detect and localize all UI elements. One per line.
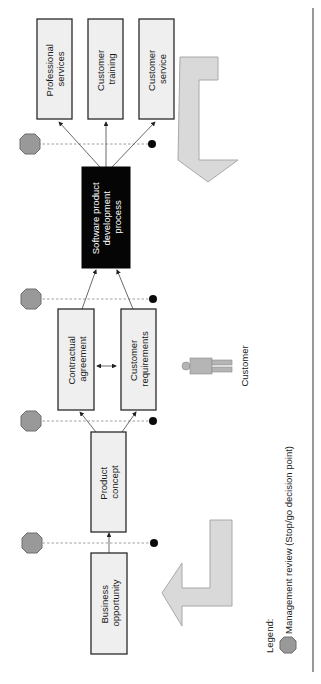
svg-text:Customer requirements: Customer requirements xyxy=(128,331,150,387)
octagon-icon xyxy=(22,533,42,553)
box-customer-service: Customer service xyxy=(139,19,174,119)
customer-label: Customer xyxy=(239,345,250,386)
arrow-concept-to-agreement xyxy=(80,412,96,432)
box-customer-training: Customer training xyxy=(88,19,123,119)
process-diagram: Professional services Customer training … xyxy=(0,0,321,684)
svg-text:Business opportunity: Business opportunity xyxy=(99,579,121,626)
svg-text:Contractual agreement: Contractual agreement xyxy=(66,333,88,384)
octagon-legend-icon xyxy=(280,637,296,653)
octagon-icon xyxy=(21,411,41,431)
dot-icon xyxy=(148,140,156,148)
legend-title: Legend: xyxy=(264,619,275,653)
flow-arrow-bottom xyxy=(162,520,232,626)
dot-icon xyxy=(149,295,157,303)
legend: Legend: Management review (Stop/go decis… xyxy=(264,446,296,653)
arrow-agreement-to-process xyxy=(82,270,96,309)
legend-item-text: Management review (Stop/go decision poin… xyxy=(283,446,294,634)
box-contractual-agreement: Contractual agreement xyxy=(58,309,94,410)
review-point-1 xyxy=(20,134,156,154)
review-point-3 xyxy=(21,411,157,431)
review-point-2 xyxy=(21,289,157,309)
arrow-process-to-professional xyxy=(59,122,100,167)
dot-icon xyxy=(149,417,157,425)
box-software-process: Software product development process xyxy=(82,167,130,268)
box-business-opportunity: Business opportunity xyxy=(91,553,127,654)
box-product-concept: Product concept xyxy=(91,432,126,532)
svg-text:Product concept: Product concept xyxy=(98,464,120,499)
arrow-requirements-to-process xyxy=(117,270,133,309)
svg-text:Customer training: Customer training xyxy=(95,47,117,91)
review-point-4 xyxy=(22,533,158,553)
arrow-concept-to-requirements xyxy=(122,412,136,432)
octagon-icon xyxy=(21,289,41,309)
octagon-icon xyxy=(20,134,40,154)
flow-arrow-top xyxy=(178,57,238,182)
dot-icon xyxy=(150,539,158,547)
box-customer-requirements: Customer requirements xyxy=(121,309,156,410)
box-professional-services: Professional services xyxy=(37,19,72,119)
customer-person-icon xyxy=(182,358,232,374)
